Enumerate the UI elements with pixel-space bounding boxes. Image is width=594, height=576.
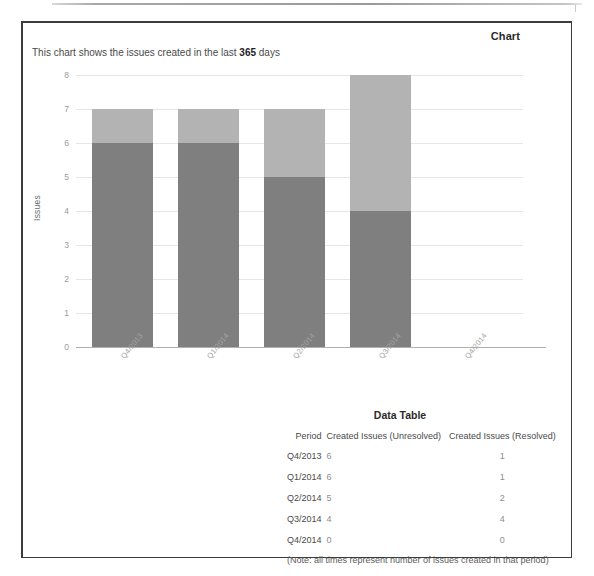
table-row: Q4/201400 [287,535,556,556]
bar-chart-plot: Issues 012345678 Q4/2013Q1/2014Q2/2014Q3… [23,23,574,423]
y-axis-tick-1: 1 [37,308,69,318]
page-top-rule-tick [575,5,576,12]
y-axis-tick-6: 6 [37,138,69,148]
report-panel: Chart This chart shows the issues create… [21,21,572,558]
bar-segment [350,211,411,347]
cell-unresolved: 5 [327,493,442,514]
bar-segment [350,75,411,211]
cell-resolved: 1 [441,472,556,493]
data-table: Period Created Issues (Unresolved) Creat… [287,431,556,556]
bar-segment [92,143,153,347]
gridline-8 [76,75,523,76]
cell-period: Q2/2014 [287,493,327,514]
bar-segment [264,109,325,177]
y-axis-tick-4: 4 [37,206,69,216]
cell-unresolved: 4 [327,514,442,535]
bar-segment [178,109,239,143]
table-row: Q1/201461 [287,472,556,493]
table-row: Q4/201361 [287,451,556,472]
cell-resolved: 1 [441,451,556,472]
table-header-row: Period Created Issues (Unresolved) Creat… [287,431,556,451]
cell-unresolved: 6 [327,472,442,493]
x-axis-tick-Q4-2014: Q4/2014 [463,331,489,360]
y-axis-tick-2: 2 [37,274,69,284]
cell-period: Q4/2013 [287,451,327,472]
y-axis-tick-5: 5 [37,172,69,182]
y-axis-tick-0: 0 [37,342,69,352]
column-header-unresolved: Created Issues (Unresolved) [327,431,442,451]
cell-period: Q1/2014 [287,472,327,493]
bar-segment [178,143,239,347]
cell-unresolved: 6 [327,451,442,472]
cell-resolved: 4 [441,514,556,535]
cell-period: Q4/2014 [287,535,327,556]
cell-resolved: 0 [441,535,556,556]
table-body: Q4/201361Q1/201461Q2/201452Q3/201444Q4/2… [287,451,556,556]
data-table-note: (Note: all times represent number of iss… [287,555,549,565]
bar-segment [92,109,153,143]
bar-segment [264,177,325,347]
column-header-resolved: Created Issues (Resolved) [441,431,556,451]
cell-unresolved: 0 [327,535,442,556]
page-top-rule [52,3,582,5]
y-axis-tick-8: 8 [37,70,69,80]
cell-resolved: 2 [441,493,556,514]
y-axis-tick-7: 7 [37,104,69,114]
y-axis-tick-3: 3 [37,240,69,250]
table-row: Q3/201444 [287,514,556,535]
table-row: Q2/201452 [287,493,556,514]
data-table-heading: Data Table [275,409,525,421]
column-header-period: Period [287,431,327,451]
cell-period: Q3/2014 [287,514,327,535]
